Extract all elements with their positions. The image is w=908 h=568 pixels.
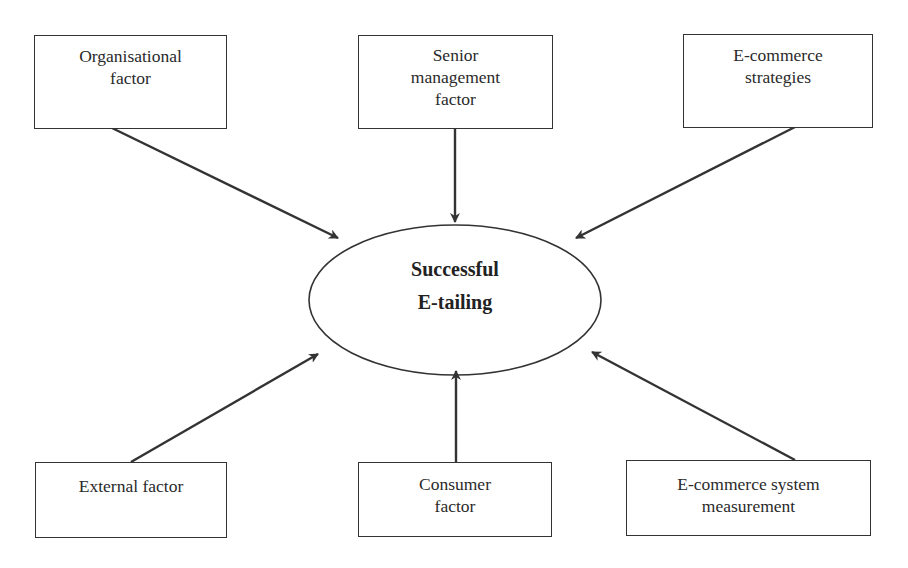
- box-label-line: factor: [35, 67, 226, 89]
- center-label-line-2: E-tailing: [330, 286, 580, 319]
- box-ecommerce-strategies: E-commerce strategies: [683, 34, 873, 128]
- arrow-ecommerce-strategies: [576, 127, 795, 238]
- box-external-factor: External factor: [35, 462, 227, 538]
- box-consumer-factor: Consumer factor: [358, 462, 552, 537]
- arrow-organisational: [112, 128, 338, 238]
- box-label-line: factor: [359, 88, 552, 110]
- box-label-line: Organisational: [35, 45, 226, 67]
- box-senior-management-factor: Senior management factor: [358, 35, 553, 129]
- center-label-line-1: Successful: [330, 253, 580, 286]
- box-label-line: External factor: [36, 475, 226, 497]
- box-ecommerce-system-measurement: E-commerce system measurement: [626, 460, 871, 536]
- box-label-line: strategies: [684, 66, 872, 88]
- box-label-line: E-commerce: [684, 44, 872, 66]
- box-label-line: E-commerce system: [627, 473, 870, 495]
- center-label: Successful E-tailing: [330, 253, 580, 319]
- arrow-ecommerce-system: [592, 352, 795, 460]
- box-label-line: Consumer: [359, 473, 551, 495]
- box-label-line: Senior: [359, 44, 552, 66]
- box-label-line: measurement: [627, 495, 870, 517]
- arrow-external: [131, 354, 318, 462]
- box-label-line: management: [359, 66, 552, 88]
- box-organisational-factor: Organisational factor: [34, 35, 227, 129]
- box-label-line: factor: [359, 495, 551, 517]
